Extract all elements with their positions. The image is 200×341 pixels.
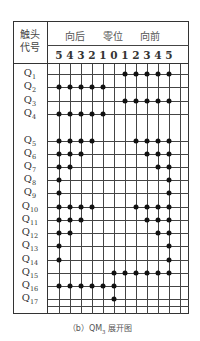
- contact-closed-dot: [134, 205, 139, 210]
- position-label: 1: [120, 49, 130, 61]
- contact-closed-dot: [79, 284, 84, 289]
- contact-closed-dot: [167, 218, 172, 223]
- contact-label: Q15: [13, 266, 47, 280]
- contact-letter: Q: [24, 94, 32, 105]
- contact-label: Q5: [13, 134, 47, 148]
- contact-label: Q7: [13, 160, 47, 174]
- contact-label: Q13: [13, 239, 47, 253]
- contact-closed-dot: [145, 218, 150, 223]
- contact-letter: Q: [22, 279, 30, 290]
- contact-number: 4: [32, 113, 36, 121]
- contact-label: Q1: [13, 67, 47, 81]
- contact-closed-dot: [79, 139, 84, 144]
- direction-label: 零位: [103, 28, 123, 43]
- contact-letter: Q: [22, 200, 30, 211]
- contact-label: Q14: [13, 253, 47, 267]
- contact-closed-dot: [156, 152, 161, 157]
- contact-closed-dot: [156, 99, 161, 104]
- contact-label: Q11: [13, 213, 47, 227]
- contact-closed-dot: [156, 231, 161, 236]
- contact-closed-dot: [90, 85, 95, 90]
- header-divider: [13, 63, 189, 64]
- contact-closed-dot: [90, 284, 95, 289]
- contact-letter: Q: [22, 213, 30, 224]
- contact-closed-dot: [167, 205, 172, 210]
- contact-closed-dot: [112, 271, 117, 276]
- caption-prefix: （b）QM: [68, 324, 102, 333]
- contact-number: 13: [30, 245, 38, 253]
- contact-label: Q4: [13, 107, 47, 121]
- contact-closed-dot: [57, 112, 62, 117]
- contact-closed-dot: [68, 165, 73, 170]
- contact-letter: Q: [24, 147, 32, 158]
- contact-closed-dot: [156, 72, 161, 77]
- contact-closed-dot: [167, 139, 172, 144]
- contact-closed-dot: [167, 231, 172, 236]
- contact-closed-dot: [101, 85, 106, 90]
- contact-letter: Q: [22, 253, 30, 264]
- contact-letter: Q: [24, 67, 32, 78]
- contact-label: Q12: [13, 226, 47, 240]
- contact-closed-dot: [156, 218, 161, 223]
- contact-number: 17: [30, 298, 38, 306]
- contact-closed-dot: [112, 297, 117, 302]
- contact-closed-dot: [167, 99, 172, 104]
- contact-closed-dot: [123, 271, 128, 276]
- contact-closed-dot: [156, 165, 161, 170]
- contact-letter: Q: [24, 173, 32, 184]
- position-label: 0: [109, 49, 119, 61]
- contact-label: Q16: [13, 279, 47, 293]
- contact-closed-dot: [57, 205, 62, 210]
- contact-closed-dot: [145, 152, 150, 157]
- contact-closed-dot: [134, 139, 139, 144]
- position-label: 4: [65, 49, 75, 61]
- contact-label: Q8: [13, 173, 47, 187]
- contact-closed-dot: [145, 72, 150, 77]
- contact-closed-dot: [68, 85, 73, 90]
- contact-number: 2: [32, 86, 36, 94]
- contact-closed-dot: [156, 205, 161, 210]
- contact-letter: Q: [22, 292, 30, 303]
- contact-closed-dot: [68, 284, 73, 289]
- position-label: 3: [142, 49, 152, 61]
- contact-closed-dot: [167, 152, 172, 157]
- contact-label: Q9: [13, 186, 47, 200]
- contact-closed-dot: [156, 271, 161, 276]
- contact-closed-dot: [134, 99, 139, 104]
- contact-closed-dot: [57, 139, 62, 144]
- contact-label: Q10: [13, 200, 47, 214]
- contact-closed-dot: [79, 85, 84, 90]
- contact-closed-dot: [57, 152, 62, 157]
- contact-letter: Q: [24, 186, 32, 197]
- contact-letter: Q: [24, 134, 32, 145]
- figure-caption: （b）QM3 展开图: [0, 322, 200, 335]
- contact-label: Q17: [13, 292, 47, 306]
- contact-closed-dot: [68, 231, 73, 236]
- grid-horizontal-line: [48, 306, 189, 307]
- caption-suffix: 展开图: [106, 324, 133, 333]
- contact-closed-dot: [101, 284, 106, 289]
- contact-closed-dot: [57, 284, 62, 289]
- contact-closed-dot: [57, 191, 62, 196]
- contact-closed-dot: [57, 178, 62, 183]
- contact-closed-dot: [57, 85, 62, 90]
- position-label: 5: [54, 49, 64, 61]
- contact-label: Q2: [13, 80, 47, 94]
- contact-closed-dot: [167, 271, 172, 276]
- contact-closed-dot: [123, 72, 128, 77]
- contact-closed-dot: [145, 139, 150, 144]
- position-label: 1: [98, 49, 108, 61]
- contact-closed-dot: [145, 271, 150, 276]
- contact-letter: Q: [24, 107, 32, 118]
- contact-closed-dot: [101, 112, 106, 117]
- contact-closed-dot: [68, 112, 73, 117]
- direction-label: 向前: [140, 28, 160, 43]
- position-label: 4: [153, 49, 163, 61]
- contact-closed-dot: [57, 244, 62, 249]
- contact-closed-dot: [90, 205, 95, 210]
- contact-closed-dot: [134, 72, 139, 77]
- contact-closed-dot: [57, 165, 62, 170]
- contact-closed-dot: [79, 152, 84, 157]
- contact-code-header: 触头 代号: [13, 28, 47, 54]
- contact-closed-dot: [167, 165, 172, 170]
